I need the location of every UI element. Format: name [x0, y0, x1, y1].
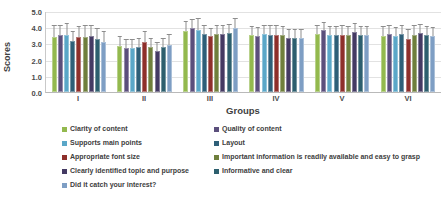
legend-item[interactable]: Appropriate font size	[62, 150, 210, 164]
bar-slot	[393, 12, 398, 92]
bar-slot	[148, 12, 153, 92]
error-bar	[360, 27, 361, 35]
legend-item[interactable]: Important information is readily availab…	[214, 150, 442, 164]
bar-V-series-4	[340, 35, 345, 92]
bar-slot	[136, 12, 141, 92]
bar-I-series-0	[52, 37, 57, 92]
error-bar	[150, 39, 151, 47]
legend-item[interactable]: Did it catch your interest?	[62, 178, 210, 192]
bar-slot	[202, 12, 207, 92]
bar-III-series-0	[183, 31, 188, 92]
bar-I-series-3	[70, 41, 75, 92]
bar-slot	[64, 12, 69, 92]
bar-II-series-7	[161, 47, 166, 92]
legend-item[interactable]: Layout	[214, 136, 442, 150]
bar-slot	[101, 12, 106, 92]
error-bar-cap	[77, 26, 82, 27]
bar-VI-series-3	[399, 34, 404, 92]
error-bar-cap	[202, 25, 207, 26]
error-bar	[342, 26, 343, 35]
error-bar-cap	[70, 31, 75, 32]
error-bar-cap	[142, 31, 147, 32]
bar-groups	[46, 12, 441, 92]
error-bar	[132, 40, 133, 48]
legend: Clarity of contentSupports main pointsAp…	[0, 122, 445, 202]
error-bar-cap	[124, 39, 129, 40]
bar-IV-series-0	[249, 35, 254, 92]
bar-group-IV	[243, 12, 309, 92]
bar-slot	[255, 12, 260, 92]
error-bar	[229, 25, 230, 33]
bar-III-series-6	[220, 34, 225, 92]
error-bar	[163, 39, 164, 47]
error-bar	[288, 30, 289, 38]
error-bar	[294, 30, 295, 38]
error-bar	[85, 26, 86, 37]
error-bar-cap	[215, 25, 220, 26]
bar-slot	[299, 12, 304, 92]
error-bar-cap	[190, 19, 195, 20]
error-bar-cap	[365, 26, 370, 27]
bar-III-series-4	[208, 36, 213, 92]
error-bar-cap	[359, 26, 364, 27]
error-bar	[414, 26, 415, 34]
error-bar	[264, 26, 265, 34]
bar-slot	[190, 12, 195, 92]
bar-slot	[315, 12, 320, 92]
error-bar-cap	[136, 38, 141, 39]
error-bar-cap	[101, 31, 106, 32]
legend-swatch-icon	[62, 183, 67, 188]
bar-slot	[214, 12, 219, 92]
legend-item[interactable]: Clearly identified topic and purpose	[62, 164, 210, 178]
bar-VI-series-8	[430, 36, 435, 92]
legend-item[interactable]: Clarity of content	[62, 122, 210, 136]
legend-item[interactable]: Informative and clear	[214, 164, 442, 178]
bar-slot	[334, 12, 339, 92]
error-bar-cap	[328, 26, 333, 27]
error-bar-cap	[387, 25, 392, 26]
bar-V-series-6	[352, 32, 357, 92]
error-bar-cap	[352, 23, 357, 24]
y-tick-0.0: 0.0	[16, 89, 42, 98]
bar-group-V	[309, 12, 375, 92]
bar-II-series-1	[124, 48, 129, 92]
error-bar	[144, 32, 145, 42]
bar-VI-series-4	[406, 39, 411, 92]
bar-II-series-8	[167, 45, 172, 92]
bar-slot	[412, 12, 417, 92]
error-bar-cap	[167, 34, 172, 35]
error-bar-cap	[221, 25, 226, 26]
y-tick-4.0: 4.0	[16, 24, 42, 33]
error-bar	[204, 26, 205, 34]
error-bar	[97, 29, 98, 39]
bar-slot	[399, 12, 404, 92]
bar-I-series-5	[83, 37, 88, 92]
error-bar-cap	[83, 25, 88, 26]
error-bar	[383, 27, 384, 36]
legend-item[interactable]: Quality of content	[214, 122, 442, 136]
legend-item[interactable]: Supports main points	[62, 136, 210, 150]
bar-III-series-3	[202, 34, 207, 92]
y-tick-2.0: 2.0	[16, 56, 42, 65]
error-bar	[126, 40, 127, 48]
bar-slot	[161, 12, 166, 92]
bar-V-series-3	[334, 35, 339, 92]
bar-slot	[262, 12, 267, 92]
error-bar	[336, 27, 337, 35]
y-axis-title: Scores	[2, 32, 16, 82]
legend-label: Clearly identified topic and purpose	[70, 164, 189, 178]
bar-IV-series-8	[299, 38, 304, 92]
legend-label: Clarity of content	[70, 122, 128, 136]
bar-slot	[430, 12, 435, 92]
bar-V-series-8	[364, 35, 369, 92]
legend-label: Supports main points	[70, 136, 142, 150]
bar-slot	[286, 12, 291, 92]
bar-group-II	[112, 12, 178, 92]
bar-slot	[227, 12, 232, 92]
bar-slot	[95, 12, 100, 92]
bar-I-series-1	[58, 35, 63, 92]
bar-slot	[364, 12, 369, 92]
error-bar-cap	[334, 26, 339, 27]
y-tick-3.0: 3.0	[16, 40, 42, 49]
error-bar	[192, 20, 193, 28]
